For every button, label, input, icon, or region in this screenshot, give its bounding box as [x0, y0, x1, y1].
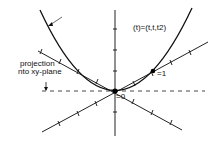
projection-label-line2: nto xy-plane: [18, 68, 62, 76]
arrowhead-icon: [48, 22, 53, 26]
point-t0-label: =0: [116, 93, 125, 101]
point-t1-label: =1: [157, 70, 166, 78]
curve-equation-label: (t)=(t,t,t2): [133, 24, 166, 32]
projection-line-2: [42, 42, 208, 132]
point-t1: [151, 69, 156, 74]
parabola-curve: [40, 8, 192, 91]
projection-arrowhead-icon: [44, 87, 48, 91]
projection-line-2-ticks: [58, 50, 191, 126]
